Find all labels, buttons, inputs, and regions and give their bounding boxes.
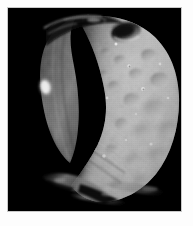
- image-frame: Grayscale spacecraft photograph of the M…: [0, 0, 193, 226]
- image-alt-text: Grayscale spacecraft photograph of the M…: [0, 0, 1, 1]
- photo-canvas: [8, 8, 181, 211]
- phobos-photograph: [8, 8, 181, 211]
- phobos-vector-render: [8, 8, 181, 211]
- image-caption: Phobos: [0, 0, 1, 1]
